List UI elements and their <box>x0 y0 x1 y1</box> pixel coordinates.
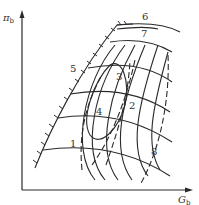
x-axis-arrow-icon <box>185 188 193 193</box>
label-7: 7 <box>141 28 147 39</box>
label-1: 1 <box>70 138 76 149</box>
y-axis-arrow-icon <box>20 10 25 18</box>
label-2: 2 <box>129 100 135 111</box>
curve-7 <box>117 28 158 30</box>
label-8: 8 <box>151 146 157 157</box>
x-axis-label: Gb <box>178 194 191 205</box>
compressor-map-diagram: πb Gb <box>0 0 199 205</box>
label-3: 3 <box>116 71 122 82</box>
label-5: 5 <box>70 63 76 74</box>
curve-labels: 1 2 3 4 5 6 7 8 <box>70 11 157 157</box>
y-axis-label: πb <box>2 12 15 25</box>
dashed-line-8 <box>140 55 168 185</box>
label-4: 4 <box>96 106 102 117</box>
label-6: 6 <box>142 11 148 22</box>
